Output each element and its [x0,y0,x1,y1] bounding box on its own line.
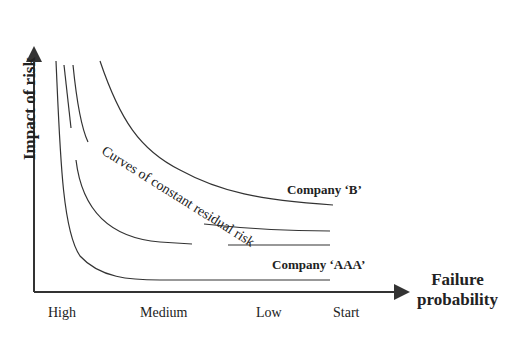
tick-low: Low [256,305,282,321]
curve-3-upper [73,65,88,142]
curve-2-upper [64,65,71,128]
tick-high: High [48,305,76,321]
curve-company-aaa [56,61,330,280]
tick-start: Start [333,305,359,321]
company-aaa-label: Company ‘AAA’ [272,257,365,273]
x-axis-label-line2: probability [410,290,505,310]
company-b-label: Company ‘B’ [287,182,362,198]
tick-medium: Medium [140,305,187,321]
y-axis-label: Impact of risk [20,60,40,160]
x-axis-label-line1: Failure [410,270,505,290]
x-axis-label: Failure probability [410,270,505,310]
